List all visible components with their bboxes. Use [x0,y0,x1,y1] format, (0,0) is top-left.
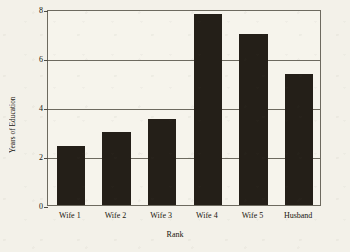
bar [57,146,85,205]
x-tick-label: Wife 2 [93,211,139,220]
y-tick-label: 4 [30,105,43,113]
bar [285,74,313,205]
bar [239,34,267,206]
x-axis-title: Rank [0,230,350,239]
y-tick-label: 2 [30,154,43,162]
bar [148,119,176,205]
y-tick-label: 6 [30,56,43,64]
x-tick-label: Wife 4 [184,211,230,220]
y-axis-title: Years of Education [6,50,20,200]
bar [194,14,222,205]
x-tick-label: Husband [275,211,321,220]
plot-area: 02468 [47,10,321,206]
x-tick-label: Wife 5 [230,211,276,220]
x-tick-label: Wife 3 [138,211,184,220]
bar-chart-figure: Years of Education 02468 Wife 1Wife 2Wif… [0,0,350,252]
y-tick-label: 0 [30,203,43,211]
bar-series [48,11,320,205]
x-tick-label: Wife 1 [47,211,93,220]
y-tick-mark [44,207,48,208]
bar [102,132,130,206]
y-tick-label: 8 [30,7,43,15]
